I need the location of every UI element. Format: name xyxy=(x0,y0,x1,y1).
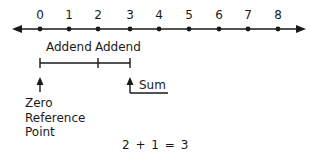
left-arrowhead-icon xyxy=(12,25,22,33)
tick-label-8: 8 xyxy=(274,9,282,21)
right-arrowhead-icon xyxy=(296,25,306,33)
zero-reference-line-3: Point xyxy=(25,125,85,140)
equation: 2 + 1 = 3 xyxy=(122,139,188,151)
zero-reference-line-2: Reference xyxy=(25,111,85,126)
zero-reference-arrow-icon xyxy=(37,77,44,92)
tick-dot-6 xyxy=(217,27,222,32)
tick-dot-8 xyxy=(276,27,281,32)
tick-label-6: 6 xyxy=(215,9,223,21)
sum-label: Sum xyxy=(139,79,166,91)
tick-dot-2 xyxy=(96,27,101,32)
tick-dot-7 xyxy=(246,27,251,32)
tick-dot-3 xyxy=(128,27,133,32)
tick-dot-1 xyxy=(67,27,72,32)
tick-label-3: 3 xyxy=(126,9,134,21)
addend-label-first: Addend xyxy=(46,41,92,53)
zero-reference-label: Zero Reference Point xyxy=(25,96,85,140)
tick-dot-5 xyxy=(187,27,192,32)
tick-label-4: 4 xyxy=(155,9,163,21)
zero-reference-line-1: Zero xyxy=(25,96,85,111)
tick-label-7: 7 xyxy=(244,9,252,21)
addend-bracket xyxy=(40,58,130,68)
addend-label-second: Addend xyxy=(95,41,141,53)
tick-dot-4 xyxy=(157,27,162,32)
tick-label-2: 2 xyxy=(94,9,102,21)
tick-label-5: 5 xyxy=(185,9,193,21)
tick-label-0: 0 xyxy=(36,9,44,21)
tick-label-1: 1 xyxy=(65,9,73,21)
tick-dot-0 xyxy=(38,27,43,32)
